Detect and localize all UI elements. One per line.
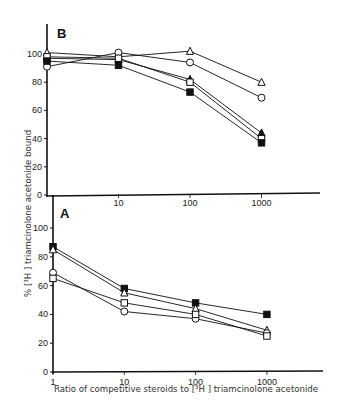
y-tick-label: 100 <box>33 223 48 233</box>
series-open-square <box>50 275 270 339</box>
square-filled-marker <box>115 62 121 68</box>
series-line <box>53 247 267 315</box>
series-open-circle <box>50 269 271 336</box>
series-line <box>47 61 262 143</box>
y-tick-label: 100 <box>27 49 42 59</box>
series-filled-triangle <box>43 54 265 136</box>
panel-a-series <box>49 244 270 340</box>
panel-b-series <box>43 47 265 146</box>
y-tick-label: 0 <box>43 367 48 377</box>
y-tick-label: 60 <box>32 105 42 115</box>
panel-b: B 020406080100 101001000 <box>27 24 320 208</box>
series-open-triangle <box>49 246 270 334</box>
square-open-marker <box>115 55 121 61</box>
series-filled-square <box>44 58 265 146</box>
chart-figure: B 020406080100 101001000 A 020406080100 … <box>0 0 344 412</box>
square-filled-marker <box>44 58 50 64</box>
y-tick-label: 20 <box>38 338 48 348</box>
panel-b-x-axis <box>47 193 320 196</box>
series-filled-square <box>50 244 270 318</box>
x-tick-label: 100 <box>182 198 197 208</box>
square-filled-marker <box>264 311 270 317</box>
series-line <box>47 51 262 82</box>
triangle-open-marker <box>186 47 193 54</box>
series-line <box>47 53 262 98</box>
panel-b-label: B <box>57 26 66 41</box>
panel-a: A 020406080100 1101001000 <box>33 195 323 387</box>
y-axis-title: % [³H ] triamcinolone acetonide bound <box>23 130 33 297</box>
circle-open-marker <box>258 94 265 101</box>
y-tick-label: 40 <box>38 309 48 319</box>
square-open-marker <box>121 300 127 306</box>
square-open-marker <box>187 79 193 85</box>
panel-a-label: A <box>60 206 70 221</box>
series-line <box>47 58 262 133</box>
y-tick-label: 20 <box>32 162 42 172</box>
series-open-triangle <box>43 47 265 85</box>
series-line <box>53 273 267 333</box>
square-open-marker <box>264 333 270 339</box>
x-axis-title: Ratio of competitive steroids to [³H ] t… <box>54 384 318 394</box>
y-tick-label: 80 <box>38 252 48 262</box>
y-tick-label: 60 <box>38 281 48 291</box>
y-tick-label: 40 <box>32 134 42 144</box>
y-tick-label: 80 <box>32 77 42 87</box>
x-tick-label: 1000 <box>251 198 271 208</box>
square-open-marker <box>192 311 198 317</box>
y-tick-label: 0 <box>37 190 42 200</box>
circle-open-marker <box>187 59 194 66</box>
square-filled-marker <box>187 89 193 95</box>
series-open-square <box>44 54 265 142</box>
square-open-marker <box>50 275 56 281</box>
series-line <box>53 278 267 336</box>
square-filled-marker <box>258 140 264 146</box>
circle-open-marker <box>121 308 128 315</box>
triangle-open-marker <box>258 78 265 85</box>
series-open-circle <box>44 49 266 101</box>
panel-a-x-axis <box>53 371 323 372</box>
panel-b-x-ticks: 101001000 <box>113 194 271 208</box>
x-tick-label: 10 <box>113 198 123 208</box>
